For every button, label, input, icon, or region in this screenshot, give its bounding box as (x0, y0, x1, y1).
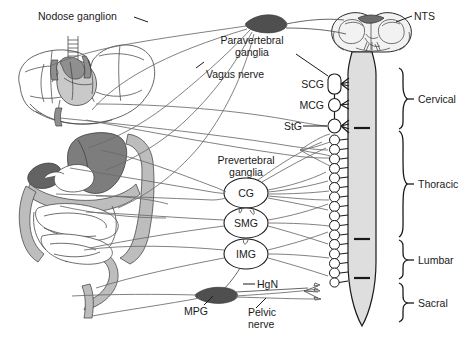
label-hgn: HgN (257, 278, 278, 290)
label-nts: NTS (414, 10, 435, 22)
leader-paravertebral (296, 54, 328, 76)
label-img: IMG (236, 248, 256, 260)
spinal-roots (339, 139, 348, 283)
label-vagus-nerve: Vagus nerve (206, 68, 264, 80)
cns-brainstem (332, 13, 412, 52)
organ-lungs-heart (19, 36, 155, 126)
spinal-level-label-lumbar: Lumbar (418, 254, 454, 266)
ganglion-mpg (195, 287, 237, 303)
bracket-cervical (399, 68, 414, 129)
label-smg: SMG (234, 217, 258, 229)
leader-vagus (196, 62, 204, 68)
chain-ganglia-series (330, 135, 340, 287)
label-nodose-ganglion: Nodose ganglion (38, 10, 117, 22)
label-stg: StG (284, 120, 302, 132)
cns-spinal-cord (348, 52, 376, 326)
bracket-thoracic (399, 131, 414, 237)
label-mcg: MCG (300, 99, 325, 111)
label-paravertebral-ganglia-line1: Paravertebral (220, 34, 283, 46)
ganglion-mcg (329, 99, 341, 112)
diagram-canvas: Nodose ganglion Vagus nerve Paravertebra… (0, 0, 476, 346)
spinal-level-brackets (399, 68, 414, 322)
organ-gi-tract (19, 133, 168, 318)
spinal-level-label-thoracic: Thoracic (418, 178, 458, 190)
label-scg: SCG (301, 78, 324, 90)
label-pelvic-nerve-line2: nerve (248, 318, 274, 330)
ganglion-scg (328, 74, 341, 94)
leader-nodose (134, 17, 148, 22)
sympathetic-chain (328, 74, 349, 287)
label-paravertebral-ganglia-line2: ganglia (235, 46, 269, 58)
anatomical-diagram: Nodose ganglion Vagus nerve Paravertebra… (0, 0, 476, 346)
label-cg: CG (238, 187, 254, 199)
label-prevertebral-ganglia-line2: ganglia (229, 166, 263, 178)
label-pelvic-nerve-line1: Pelvic (248, 306, 276, 318)
label-prevertebral-ganglia-line1: Prevertebral (217, 154, 274, 166)
spinal-level-label-cervical: Cervical (418, 93, 456, 105)
ganglion-stg (328, 119, 341, 133)
spinal-level-label-sacral: Sacral (418, 297, 448, 309)
ganglion-nodose (245, 15, 286, 33)
label-mpg: MPG (184, 305, 208, 317)
bracket-lumbar (399, 240, 414, 279)
bracket-sacral (399, 283, 414, 322)
